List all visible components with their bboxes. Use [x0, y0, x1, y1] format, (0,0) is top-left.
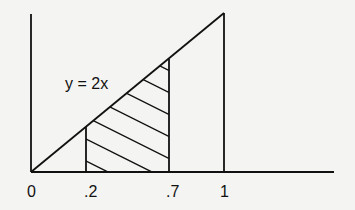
- tick-label-0.2: .2: [84, 183, 97, 200]
- tick-label-0.7: .7: [166, 183, 179, 200]
- function-line: [31, 13, 224, 172]
- triangle-density-diagram: y = 2x 0 .2 .7 1: [0, 0, 355, 210]
- curve-label: y = 2x: [65, 75, 108, 92]
- tick-label-1: 1: [220, 183, 229, 200]
- hatched-region: [60, 0, 240, 210]
- tick-label-0: 0: [27, 183, 36, 200]
